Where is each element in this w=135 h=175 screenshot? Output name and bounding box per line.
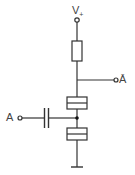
- input-label: A: [6, 112, 13, 123]
- supply-label: V+: [72, 5, 83, 18]
- input-terminal-icon: [18, 116, 22, 120]
- junction-dot: [75, 116, 79, 120]
- resistor-icon: [72, 41, 82, 61]
- vplus-terminal-icon: [75, 18, 79, 22]
- output-label: Ā: [119, 74, 126, 85]
- output-terminal-icon: [114, 78, 118, 82]
- supply-label-sub: +: [79, 11, 83, 18]
- circuit-schematic: [0, 0, 135, 175]
